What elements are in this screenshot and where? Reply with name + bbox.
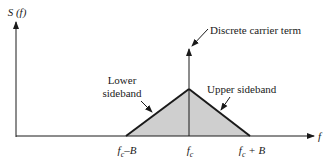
upper-sideband-pointer-arrow bbox=[221, 97, 230, 110]
y-axis-label: S (f) bbox=[8, 6, 27, 18]
lower-sideband-pointer-arrow bbox=[141, 101, 152, 112]
tick-label-fc: fc bbox=[187, 144, 194, 156]
tick-suffix: + B bbox=[245, 144, 265, 156]
carrier-annotation: Discrete carrier term bbox=[210, 24, 301, 36]
carrier-pointer-arrow bbox=[192, 29, 208, 46]
lower-sideband-label-line1: Lower bbox=[108, 74, 137, 86]
tick-suffix: –B bbox=[124, 144, 136, 156]
sideband-triangle bbox=[126, 89, 250, 136]
tick-subscript: c bbox=[190, 150, 194, 159]
upper-sideband-label: Upper sideband bbox=[207, 83, 276, 95]
lower-sideband-label-line2: sideband bbox=[102, 87, 141, 99]
tick-label-fc-plus-b: fc + B bbox=[239, 144, 265, 156]
tick-label-fc-minus-b: fc–B bbox=[118, 144, 137, 156]
x-axis-label: f bbox=[318, 130, 321, 142]
